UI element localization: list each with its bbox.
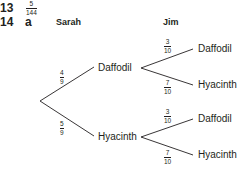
fraction-numerator: 4: [60, 69, 64, 76]
fraction-numerator: 7: [166, 79, 170, 86]
label-jim-daffodil-after-daffodil: Daffodil: [198, 43, 232, 54]
fraction-denominator: 10: [164, 88, 171, 95]
label-jim-hyacinth-after-hyacinth: Hyacinth: [198, 149, 237, 160]
fraction-denominator: 9: [60, 129, 64, 136]
label-jim-daffodil-after-hyacinth: Daffodil: [198, 113, 232, 124]
prob-jim-hyacinth-after-hyacinth: 7 10: [164, 149, 171, 165]
fraction-numerator: 3: [166, 108, 170, 115]
prob-sarah-daffodil: 4 9: [60, 69, 64, 85]
fraction-numerator: 7: [166, 149, 170, 156]
fraction-denominator: 10: [164, 47, 171, 54]
fraction-denominator: 10: [164, 117, 171, 124]
prob-jim-daffodil-after-hyacinth: 3 10: [164, 108, 171, 124]
fraction-denominator: 9: [60, 78, 64, 85]
prob-sarah-hyacinth: 5 9: [60, 120, 64, 136]
prob-jim-hyacinth-after-daffodil: 7 10: [164, 79, 171, 95]
label-sarah-daffodil: Daffodil: [98, 62, 132, 73]
fraction-numerator: 5: [60, 120, 64, 127]
label-jim-hyacinth-after-daffodil: Hyacinth: [198, 79, 237, 90]
branch-root-daffodil: [40, 67, 94, 101]
prob-jim-daffodil-after-daffodil: 3 10: [164, 38, 171, 54]
fraction-numerator: 3: [166, 38, 170, 45]
branch-root-hyacinth: [40, 101, 94, 136]
fraction-denominator: 10: [164, 158, 171, 165]
label-sarah-hyacinth: Hyacinth: [98, 131, 137, 142]
